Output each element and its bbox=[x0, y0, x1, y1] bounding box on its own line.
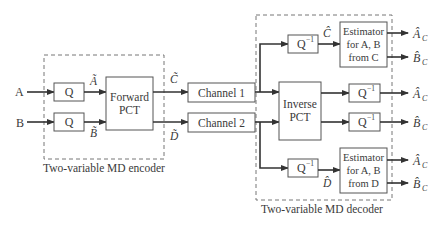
svg-text:C: C bbox=[422, 184, 428, 193]
c-tilde-label: C̃ bbox=[170, 72, 178, 85]
svg-text:from C: from C bbox=[348, 52, 378, 63]
inverse-quantizer-a: Q −1 bbox=[349, 84, 380, 102]
input-b-label: B bbox=[16, 116, 24, 130]
encoder-label: Two-variable MD encoder bbox=[43, 162, 165, 174]
svg-text:Forward: Forward bbox=[110, 91, 149, 103]
svg-text:−1: −1 bbox=[306, 159, 314, 168]
forward-pct-block: Forward PCT bbox=[106, 77, 153, 130]
output-b-hat-1: B̂ C bbox=[413, 51, 428, 67]
svg-text:from D: from D bbox=[348, 178, 379, 189]
output-a-hat-3: Â C bbox=[412, 154, 428, 170]
b-tilde-label: B̃ bbox=[90, 126, 97, 139]
svg-text:−1: −1 bbox=[367, 113, 375, 122]
svg-text:C: C bbox=[422, 94, 428, 103]
inverse-quantizer-d: Q −1 bbox=[288, 159, 318, 177]
svg-text:Channel 1: Channel 1 bbox=[198, 87, 245, 99]
svg-text:for A, B: for A, B bbox=[346, 165, 380, 176]
svg-text:PCT: PCT bbox=[289, 111, 310, 123]
a-tilde-label: Ã bbox=[89, 74, 98, 87]
svg-text:C: C bbox=[422, 161, 428, 170]
d-tilde-label: D̃ bbox=[169, 129, 179, 142]
output-a-hat-2: Â C bbox=[412, 87, 428, 103]
svg-text:Â: Â bbox=[412, 27, 421, 41]
svg-text:Q: Q bbox=[297, 37, 306, 51]
d-hat-label: D̂ bbox=[322, 176, 332, 189]
output-b-hat-3: B̂ C bbox=[413, 177, 428, 193]
output-a-hat-1: Â C bbox=[412, 27, 428, 43]
inverse-quantizer-c: Q −1 bbox=[288, 35, 318, 53]
svg-text:Q: Q bbox=[358, 86, 367, 100]
svg-text:Â: Â bbox=[412, 87, 421, 101]
svg-text:B̂: B̂ bbox=[413, 51, 421, 65]
svg-text:for A, B: for A, B bbox=[346, 39, 380, 50]
quantizer-a: Q bbox=[54, 83, 84, 101]
estimator-from-d: Estimator for A, B from D bbox=[340, 148, 387, 193]
svg-text:Channel 2: Channel 2 bbox=[198, 117, 245, 129]
estimator-from-c: Estimator for A, B from C bbox=[340, 22, 387, 67]
output-b-hat-2: B̂ C bbox=[413, 116, 428, 132]
svg-text:−1: −1 bbox=[367, 84, 375, 93]
svg-text:C: C bbox=[422, 123, 428, 132]
svg-text:C: C bbox=[422, 58, 428, 67]
svg-text:Estimator: Estimator bbox=[343, 152, 384, 163]
quantizer-b: Q bbox=[54, 113, 84, 131]
md-coding-diagram: Two-variable MD encoder A B Q Q Ã B̃ For… bbox=[0, 0, 439, 226]
decoder-label: Two-variable MD decoder bbox=[261, 203, 383, 215]
svg-text:B̂: B̂ bbox=[413, 116, 421, 130]
input-a-label: A bbox=[15, 85, 24, 99]
channel-2-block: Channel 2 bbox=[188, 113, 255, 132]
c-hat-label: Ĉ bbox=[323, 26, 331, 39]
svg-text:Q: Q bbox=[297, 161, 306, 175]
svg-text:B̂: B̂ bbox=[413, 177, 421, 191]
channel-1-block: Channel 1 bbox=[188, 83, 255, 102]
svg-text:C: C bbox=[422, 34, 428, 43]
svg-text:Â: Â bbox=[412, 154, 421, 168]
svg-text:Q: Q bbox=[358, 115, 367, 129]
inverse-quantizer-b: Q −1 bbox=[349, 113, 380, 131]
svg-text:Q: Q bbox=[65, 115, 74, 129]
svg-text:Estimator: Estimator bbox=[343, 26, 384, 37]
inverse-pct-block: Inverse PCT bbox=[279, 82, 321, 140]
svg-text:PCT: PCT bbox=[119, 104, 140, 116]
svg-text:Q: Q bbox=[65, 85, 74, 99]
svg-text:Inverse: Inverse bbox=[283, 98, 317, 110]
svg-text:−1: −1 bbox=[306, 35, 314, 44]
